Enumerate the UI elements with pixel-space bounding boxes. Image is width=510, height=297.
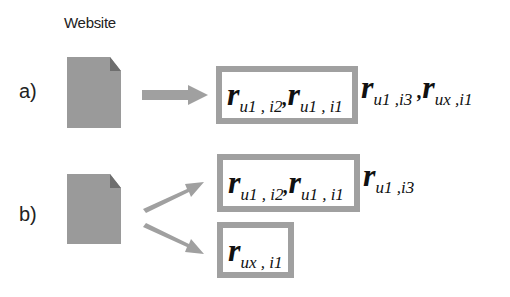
row-a-label: a) (19, 80, 37, 103)
document-icon (67, 174, 121, 244)
rating-subscript: u1 ,i3 (375, 178, 414, 197)
rating-symbol: r (228, 164, 240, 200)
rating-subscript: u1 , i2 (239, 97, 282, 116)
arrow-down-right-icon (140, 222, 206, 264)
rating-subscript: u1 , i1 (300, 97, 343, 116)
rating-symbol: r (287, 76, 299, 112)
arrow-up-right-icon (140, 176, 206, 218)
rating-subscript: u1 , i2 (240, 185, 283, 204)
rating-group-box: ru1 , i2,ru1 , i1 (216, 66, 358, 124)
rating-subscript: u1 , i1 (301, 185, 344, 204)
ungrouped-ratings: ru1 ,i3 (363, 157, 414, 194)
rating-symbol: r (361, 69, 373, 105)
ungrouped-ratings: ru1 ,i3 ,rux ,i1 (361, 69, 472, 106)
row-b-label: b) (19, 203, 37, 226)
rating-subscript: ux , i1 (240, 253, 282, 272)
arrow-right-icon (142, 85, 208, 109)
rating-group-box: ru1 , i2,ru1 , i1 (217, 154, 360, 212)
rating-subscript: ux ,i1 (435, 90, 473, 109)
document-icon (67, 57, 121, 128)
rating-symbol: r (288, 164, 300, 200)
rating-symbol: r (227, 76, 239, 112)
rating-group-box: rux , i1 (217, 222, 294, 278)
separator: , (412, 80, 422, 102)
rating-symbol: r (422, 69, 434, 105)
rating-symbol: r (363, 157, 375, 193)
website-label: Website (64, 14, 116, 31)
rating-symbol: r (228, 232, 240, 268)
rating-subscript: u1 ,i3 (373, 90, 412, 109)
